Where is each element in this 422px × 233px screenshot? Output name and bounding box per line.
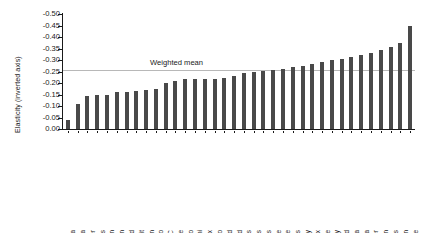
x-axis-tick-mark: [293, 131, 294, 133]
x-axis-tick-mark: [273, 131, 274, 133]
x-axis-tick-mark: [263, 131, 264, 133]
y-axis-tick-label: -0.10: [0, 102, 60, 110]
bar: [340, 59, 344, 129]
x-axis-tick-label: Chicago: [188, 230, 194, 233]
x-axis-tick-label: Hartford: [129, 230, 135, 233]
y-axis-tick-label: -0.40: [0, 33, 60, 41]
x-axis-tick-label: San Francisco: [217, 230, 223, 233]
bar: [291, 67, 295, 129]
x-axis-tick-label: Albuquerque: [178, 230, 184, 233]
bar: [330, 60, 334, 129]
bar: [183, 79, 187, 129]
bar: [389, 47, 393, 129]
x-axis-tick-label: Atlanta: [80, 230, 86, 233]
bar: [359, 55, 363, 129]
x-axis-tick-label: Memphis: [393, 230, 399, 233]
y-axis-tick-label: -0.50: [0, 10, 60, 18]
bar: [125, 92, 129, 129]
x-axis-tick-label: Washington DC: [168, 230, 174, 233]
bar: [173, 81, 177, 129]
bar: [66, 120, 70, 129]
x-axis-tick-label: Houston: [383, 230, 389, 233]
x-axis-tick-label: Portland: [237, 230, 243, 233]
bar: [369, 53, 373, 129]
x-axis-tick-label: Baltimore: [276, 230, 282, 233]
x-axis-tick-label: Milwaukee: [413, 230, 419, 233]
x-axis-tick-label: Boulder: [90, 230, 96, 233]
bar: [76, 104, 80, 129]
x-axis-tick-mark: [400, 131, 401, 133]
x-axis-tick-label: Dallas: [295, 230, 301, 233]
x-axis-tick-mark: [342, 131, 343, 133]
x-axis-tick-label: Los Angeles: [100, 230, 106, 233]
y-axis-tick-label: -0.35: [0, 45, 60, 53]
x-axis-tick-mark: [391, 131, 392, 133]
x-axis-labels: San Francisco areaAtlantaBoulderLos Ange…: [63, 131, 415, 233]
x-axis-tick-label: San Francisco area: [70, 230, 76, 233]
x-axis-tick-label: San Antonio: [158, 230, 164, 233]
x-axis-tick-label: Philadelphia: [364, 230, 370, 233]
y-axis-tick-label: 0.00: [0, 125, 60, 133]
x-axis-tick-mark: [371, 131, 372, 133]
x-axis-tick-mark: [185, 131, 186, 133]
x-axis-line: [62, 129, 415, 130]
x-axis-tick-mark: [195, 131, 196, 133]
x-axis-tick-label: New Orleans: [256, 230, 262, 233]
bar: [203, 79, 207, 129]
x-axis-tick-label: Phoenix: [315, 230, 321, 233]
bar: [271, 70, 275, 129]
x-axis-tick-mark: [97, 131, 98, 133]
bar: [115, 92, 119, 129]
y-axis-tick-label: -0.25: [0, 68, 60, 76]
bar: [261, 71, 265, 129]
x-axis-tick-label: Seattle: [285, 230, 291, 233]
bar: [349, 57, 353, 129]
bar-series: [63, 14, 415, 129]
y-axis-tick-label: -0.15: [0, 91, 60, 99]
bar: [164, 83, 168, 129]
chart-figure: Elasticity (inverted axis) -0.50-0.45-0.…: [0, 0, 422, 233]
bar: [95, 95, 99, 129]
bar: [242, 73, 246, 129]
y-axis-tick-label: -0.30: [0, 56, 60, 64]
bar: [105, 95, 109, 129]
x-axis-tick-label: New York/Long Island: [344, 230, 350, 233]
x-axis-tick-label: Kansas City: [334, 230, 340, 233]
bar: [320, 62, 324, 129]
x-axis-tick-mark: [156, 131, 157, 133]
x-axis-tick-mark: [146, 131, 147, 133]
bar: [301, 66, 305, 129]
x-axis-tick-mark: [127, 131, 128, 133]
x-axis-tick-mark: [215, 131, 216, 133]
x-axis-tick-mark: [410, 131, 411, 133]
x-axis-tick-label: Jacksonville: [325, 230, 331, 233]
x-axis-tick-mark: [234, 131, 235, 133]
x-axis-tick-label: New York/Brooklyn: [109, 230, 115, 233]
x-axis-tick-mark: [312, 131, 313, 133]
x-axis-tick-mark: [361, 131, 362, 133]
x-axis-tick-label: Tampa: [354, 230, 360, 233]
bar: [213, 79, 217, 129]
bar: [232, 76, 236, 129]
x-axis-tick-label: St Louis: [266, 230, 272, 233]
x-axis-tick-label: Denver: [373, 230, 379, 233]
x-axis-tick-mark: [351, 131, 352, 133]
x-axis-tick-label: Tucson: [403, 230, 409, 233]
x-axis-tick-mark: [78, 131, 79, 133]
x-axis-tick-mark: [322, 131, 323, 133]
bar: [222, 78, 226, 129]
bar: [134, 91, 138, 129]
x-axis-tick-mark: [87, 131, 88, 133]
bar: [379, 50, 383, 129]
bar: [398, 43, 402, 129]
x-axis-tick-mark: [332, 131, 333, 133]
bar: [281, 69, 285, 129]
x-axis-tick-label: Miami: [197, 230, 203, 233]
bar: [193, 79, 197, 129]
x-axis-tick-mark: [205, 131, 206, 133]
y-axis-tick-label: -0.05: [0, 114, 60, 122]
x-axis-tick-label: Cleveland: [227, 230, 233, 233]
x-axis-tick-mark: [283, 131, 284, 133]
x-axis-tick-label: New York/Bronx: [207, 230, 213, 233]
x-axis-tick-mark: [224, 131, 225, 133]
